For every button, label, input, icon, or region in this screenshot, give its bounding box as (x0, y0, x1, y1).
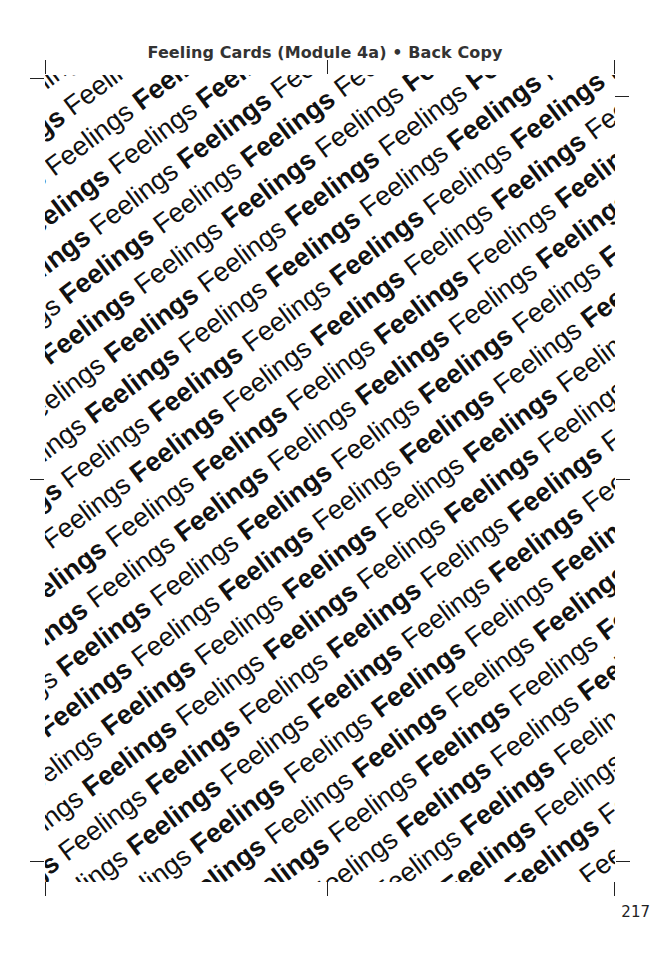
crop-mark (30, 78, 44, 79)
crop-mark (327, 60, 328, 74)
crop-mark (615, 96, 629, 97)
page-number: 217 (570, 903, 650, 921)
crop-mark (45, 882, 46, 896)
feelings-word-pattern: Feelings Feelings Feelings Feelings Feel… (45, 75, 615, 882)
crop-mark (30, 479, 44, 480)
page-title: Feeling Cards (Module 4a) • Back Copy (0, 43, 650, 62)
crop-mark (616, 479, 630, 480)
crop-mark (45, 60, 46, 74)
crop-mark (614, 882, 615, 896)
crop-mark (30, 861, 44, 862)
crop-mark (616, 861, 630, 862)
crop-mark (614, 60, 615, 74)
feelings-card-back: Feelings Feelings Feelings Feelings Feel… (45, 75, 615, 882)
crop-mark (327, 882, 328, 896)
